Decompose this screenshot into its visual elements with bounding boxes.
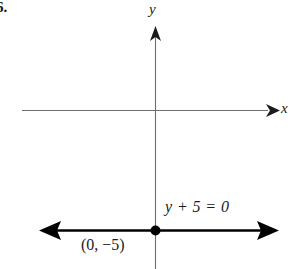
graph-figure: 6. y x y + 5 = 0 (0, −5) (0, 0, 295, 269)
coordinate-plane-svg (0, 0, 295, 269)
y-axis-label: y (149, 2, 156, 17)
line-equation-label: y + 5 = 0 (165, 199, 229, 215)
x-axis-label: x (281, 101, 288, 116)
point-coordinate-label: (0, −5) (81, 237, 125, 253)
x-axis-arrowhead (266, 104, 280, 117)
problem-number: 6. (0, 0, 7, 15)
y-intercept-point (151, 226, 161, 236)
